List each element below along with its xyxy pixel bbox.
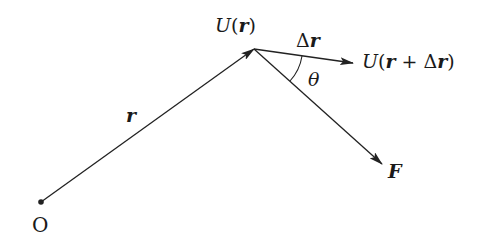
delta-symbol: Δ — [296, 29, 310, 51]
displacement-label: Δr — [296, 31, 320, 50]
position-vector-label: r — [126, 106, 136, 125]
displacement-vector-delta-r — [254, 49, 353, 63]
plus-sign: + — [395, 50, 423, 72]
angle-arc-theta — [290, 56, 302, 81]
position-vector-r — [41, 49, 254, 202]
position-arg: r — [238, 14, 248, 36]
potential-func-symbol-2: U — [362, 50, 378, 72]
delta-symbol-2: Δ — [423, 50, 437, 72]
potential-at-r-label: U(r) — [215, 16, 256, 35]
displacement-arg: r — [437, 50, 447, 72]
paren-close-2: ) — [447, 50, 454, 72]
potential-at-r-plus-dr-label: U(r + Δr) — [362, 52, 455, 71]
origin-label: O — [32, 215, 48, 235]
potential-func-symbol: U — [215, 14, 231, 36]
force-label: F — [388, 162, 402, 181]
vector-diagram — [0, 0, 483, 248]
position-arg-2: r — [385, 50, 395, 72]
displacement-vec: r — [310, 29, 320, 51]
paren-close: ) — [248, 14, 255, 36]
angle-label: θ — [308, 70, 319, 89]
